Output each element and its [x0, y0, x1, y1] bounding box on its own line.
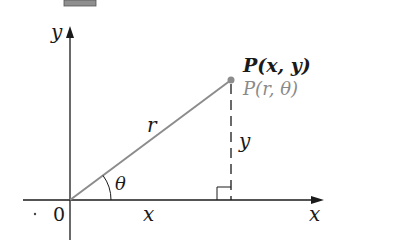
radius-line	[70, 80, 231, 200]
x-axis-label: x	[309, 204, 320, 224]
header-box	[64, 0, 96, 6]
horizontal-leg-label: x	[143, 204, 154, 224]
stray-dot	[34, 213, 36, 215]
point-polar-label: P(r, θ)	[243, 80, 298, 98]
radius-label: r	[147, 115, 157, 135]
point-p	[228, 77, 235, 84]
y-axis-label: y	[51, 22, 62, 42]
point-cartesian-label: P(x, y)	[243, 56, 311, 75]
angle-label: θ	[115, 175, 126, 193]
angle-arc	[103, 176, 111, 201]
origin-label: 0	[53, 205, 65, 224]
polar-coordinates-diagram: y x 0 P(x, y) P(r, θ) r θ x y	[0, 0, 395, 242]
right-angle-marker	[217, 187, 231, 200]
vertical-leg-label: y	[239, 131, 250, 151]
y-axis-arrow-icon	[66, 26, 74, 38]
